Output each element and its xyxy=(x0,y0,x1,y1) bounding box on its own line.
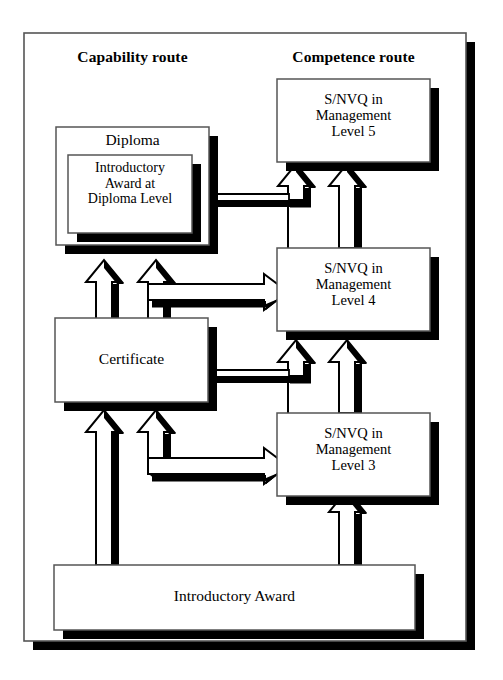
node-certificate[interactable] xyxy=(55,318,217,411)
connector-certificate-to-snvq4-elbow xyxy=(209,370,290,383)
node-snvq4[interactable] xyxy=(277,248,439,340)
node-snvq3[interactable] xyxy=(277,413,439,505)
node-introductory-award[interactable] xyxy=(54,565,424,639)
diagram-canvas: Capability route Competence route S/NVQ … xyxy=(0,0,503,680)
node-intro-award-diploma[interactable] xyxy=(68,155,201,242)
node-snvq5[interactable] xyxy=(277,79,439,171)
diagram-graphics xyxy=(0,0,503,680)
